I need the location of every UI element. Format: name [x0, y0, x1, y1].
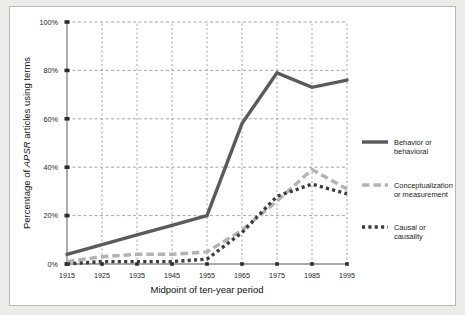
x-tick-mark	[345, 262, 349, 266]
y-tick-label: 0%	[48, 260, 59, 269]
x-tick-mark	[205, 262, 209, 266]
x-tick-mark	[310, 262, 314, 266]
chart-svg: 0%20%40%60%80%100% 191519251935194519551…	[0, 0, 465, 315]
x-tick-label: 1925	[94, 271, 110, 280]
y-tick-mark	[65, 117, 70, 121]
legend-label: Causal or	[394, 223, 426, 232]
y-tick-label: 80%	[44, 66, 59, 75]
x-tick-label: 1955	[199, 271, 215, 280]
x-tick-mark	[275, 262, 279, 266]
gridlines	[67, 22, 347, 264]
x-tick-label: 1995	[339, 271, 355, 280]
y-tick-label: 60%	[44, 115, 59, 124]
x-tick-label: 1985	[304, 271, 320, 280]
x-tick-label: 1945	[164, 271, 180, 280]
x-axis-title: Midpoint of ten-year period	[150, 284, 263, 295]
y-tick-mark	[65, 69, 70, 73]
x-tick-mark	[240, 262, 244, 266]
y-tick-mark	[65, 214, 70, 218]
y-tick-mark	[65, 165, 70, 169]
figure-background: 0%20%40%60%80%100% 191519251935194519551…	[0, 0, 465, 315]
svg-text:Percentage of APSR articles us: Percentage of APSR articles using terms	[21, 57, 32, 229]
legend: Behavior orbehavioralConceptualizationor…	[362, 138, 453, 242]
legend-label: causality	[394, 232, 423, 241]
legend-label: behavioral	[394, 147, 428, 156]
x-tick-label: 1975	[269, 271, 285, 280]
x-tick-label: 1915	[59, 271, 75, 280]
y-axis-title: Percentage of APSR articles using terms	[21, 57, 32, 229]
y-tick-label: 40%	[44, 163, 59, 172]
chart-canvas: 0%20%40%60%80%100% 191519251935194519551…	[0, 0, 465, 315]
x-tick-label: 1965	[234, 271, 250, 280]
legend-label: Behavior or	[394, 138, 432, 147]
legend-label: Conceptualization	[394, 181, 453, 190]
y-tick-mark	[65, 20, 70, 24]
y-tick-label: 20%	[44, 211, 59, 220]
legend-label: or measurement	[394, 190, 448, 199]
x-tick-group: 191519251935194519551965197519851995	[59, 262, 355, 280]
x-tick-label: 1935	[129, 271, 145, 280]
y-tick-label: 100%	[40, 18, 59, 27]
y-tick-group: 0%20%40%60%80%100%	[40, 18, 70, 269]
